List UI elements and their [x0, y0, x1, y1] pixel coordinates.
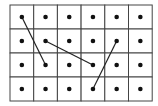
grid-dot	[114, 15, 119, 20]
grid-dot	[91, 87, 96, 92]
grid-dot	[138, 39, 143, 44]
grid-dot	[138, 15, 143, 20]
grid-dot	[91, 15, 96, 20]
grid-dot	[91, 39, 96, 44]
dot-grid-diagram	[0, 0, 158, 106]
grid-dot	[114, 87, 119, 92]
grid-dot	[138, 63, 143, 68]
grid-dot	[20, 87, 25, 92]
grid-dot	[67, 87, 72, 92]
grid-dot	[20, 63, 25, 68]
grid-dot	[20, 15, 25, 20]
grid-dot	[67, 15, 72, 20]
grid-dot	[114, 63, 119, 68]
grid-dot	[67, 63, 72, 68]
grid-dot	[114, 39, 119, 44]
grid-dot	[43, 87, 48, 92]
grid-dot	[67, 39, 72, 44]
grid-dot	[43, 63, 48, 68]
grid-dot	[43, 15, 48, 20]
grid-dot	[91, 63, 96, 68]
grid-dot	[43, 39, 48, 44]
grid-dot	[20, 39, 25, 44]
grid-dot	[138, 87, 143, 92]
grid-cells	[10, 5, 152, 101]
